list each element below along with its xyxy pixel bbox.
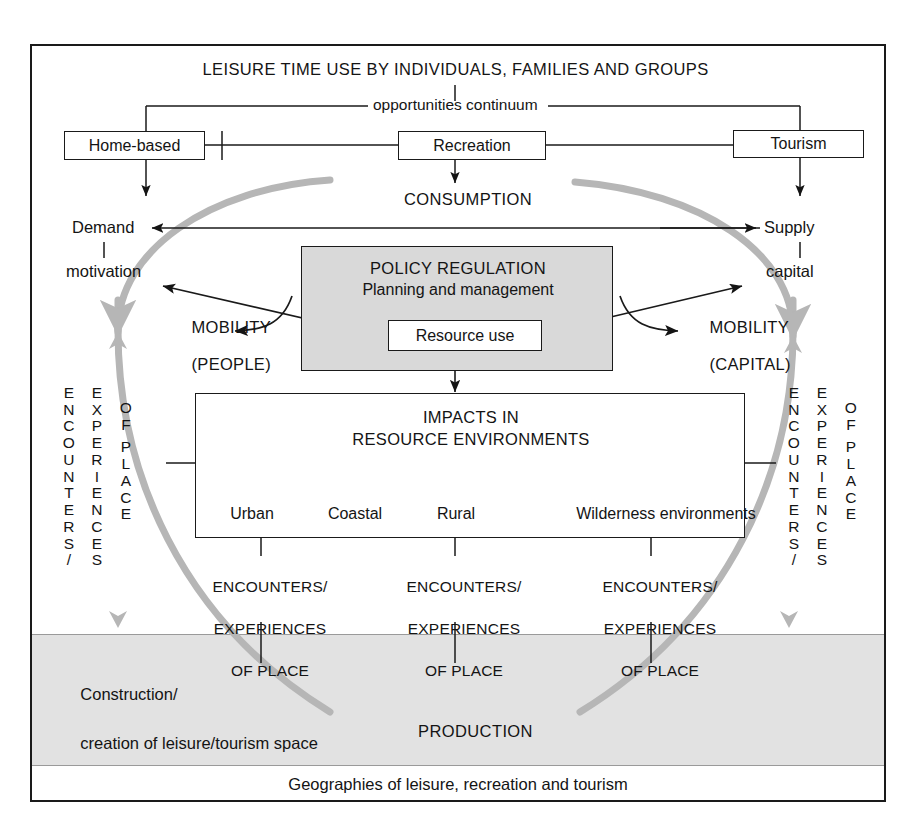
vertical-letter: E [60,385,78,402]
demand-label: Demand [72,218,134,236]
encounters-block-2-line2: EXPERIENCES [408,620,520,637]
vertical-letter: N [88,502,106,519]
encounters-block-3-line3: OF PLACE [621,662,699,679]
mobility-capital-line1: MOBILITY [710,318,789,336]
continuum-box-home-based[interactable]: Home-based [64,131,205,160]
impacts-env-wilderness: Wilderness environments [558,505,774,523]
mobility-people-line2: (PEOPLE) [192,355,271,373]
policy-regulation-title: POLICY REGULATION [302,259,614,277]
construction-line1: Construction/ [80,685,177,703]
impacts-env-coastal: Coastal [313,505,397,523]
impacts-env-rural: Rural [421,505,491,523]
vertical-letter: P [842,439,860,456]
vertical-letter: N [785,469,803,486]
vertical-letter: X [88,402,106,419]
vertical-letter: C [117,490,135,507]
vertical-letter: L [117,456,135,473]
mobility-capital-line2: (CAPITAL) [710,355,791,373]
encounters-block-3-line2: EXPERIENCES [604,620,716,637]
left-vertical-encounters: ENCOUNTERS/ [60,385,78,569]
impacts-title-line2: RESOURCE ENVIRONMENTS [196,430,746,448]
encounters-block-2: ENCOUNTERS/ EXPERIENCES OF PLACE [375,556,535,702]
vertical-letter: P [88,418,106,435]
impacts-title-line1: IMPACTS IN [196,408,746,426]
encounters-block-2-line3: OF PLACE [425,662,503,679]
vertical-letter: R [813,452,831,469]
resource-use-box[interactable]: Resource use [388,320,542,351]
demand-motivation-label: motivation [66,262,141,280]
vertical-letter: I [88,469,106,486]
vertical-letter: E [813,485,831,502]
diagram-canvas: LEISURE TIME USE BY INDIVIDUALS, FAMILIE… [0,0,911,836]
vertical-letter: F [117,417,135,434]
vertical-letter: C [88,519,106,536]
vertical-letter: / [60,552,78,569]
right-vertical-encounters: ENCOUNTERS/ [785,385,803,569]
vertical-letter: E [785,502,803,519]
impacts-box[interactable]: IMPACTS IN RESOURCE ENVIRONMENTS Urban C… [195,393,745,538]
vertical-letter: O [842,400,860,417]
continuum-box-recreation-label: Recreation [433,137,510,155]
vertical-letter: O [60,435,78,452]
right-vertical-experiences: EXPERIENCES [813,385,831,569]
vertical-letter: E [813,435,831,452]
policy-regulation-subtitle: Planning and management [302,281,614,299]
vertical-letter: E [813,385,831,402]
vertical-letter: U [60,452,78,469]
vertical-letter: N [60,402,78,419]
vertical-letter: X [813,402,831,419]
vertical-letter: I [813,469,831,486]
continuum-box-tourism[interactable]: Tourism [733,130,864,158]
vertical-letter: C [842,490,860,507]
vertical-letter: E [88,536,106,553]
production-label: PRODUCTION [418,722,533,740]
resource-use-label: Resource use [416,327,515,345]
supply-capital-label: capital [766,262,814,280]
vertical-letter: S [60,536,78,553]
vertical-letter: C [60,418,78,435]
vertical-letter: A [117,473,135,490]
vertical-letter: T [60,485,78,502]
construction-label: Construction/ creation of leisure/touris… [62,657,318,781]
vertical-letter: E [785,385,803,402]
vertical-letter: / [785,552,803,569]
vertical-letter: O [785,435,803,452]
mobility-people-label: MOBILITY (PEOPLE) [172,300,271,392]
vertical-letter: S [785,536,803,553]
left-vertical-experiences: EXPERIENCES [88,385,106,569]
impacts-env-urban: Urban [216,505,288,523]
vertical-letter: E [88,385,106,402]
vertical-letter: P [117,439,135,456]
vertical-letter: L [842,456,860,473]
footer-label: Geographies of leisure, recreation and t… [32,775,884,793]
consumption-label: CONSUMPTION [404,190,532,208]
right-vertical-of-place: OF PLACE [842,400,860,523]
vertical-letter: C [813,519,831,536]
vertical-letter: T [785,485,803,502]
vertical-letter: S [813,552,831,569]
left-vertical-of-place: OF PLACE [117,400,135,523]
encounters-block-2-line1: ENCOUNTERS/ [407,578,522,595]
vertical-letter: O [117,400,135,417]
opportunities-continuum-label: opportunities continuum [373,96,538,113]
vertical-letter: U [785,452,803,469]
encounters-block-1-line2: EXPERIENCES [214,620,326,637]
policy-regulation-box[interactable]: POLICY REGULATION Planning and managemen… [301,246,613,371]
vertical-letter: A [842,473,860,490]
vertical-letter: E [813,536,831,553]
mobility-people-line1: MOBILITY [192,318,271,336]
construction-line2: creation of leisure/tourism space [80,734,318,752]
encounters-block-3: ENCOUNTERS/ EXPERIENCES OF PLACE [571,556,731,702]
vertical-letter: S [88,552,106,569]
page-title: LEISURE TIME USE BY INDIVIDUALS, FAMILIE… [0,60,911,78]
vertical-letter: R [88,452,106,469]
vertical-letter: E [117,506,135,523]
vertical-letter: E [60,502,78,519]
continuum-box-recreation[interactable]: Recreation [398,131,546,160]
encounters-block-1-line1: ENCOUNTERS/ [213,578,328,595]
vertical-letter: R [785,519,803,536]
vertical-letter: E [88,435,106,452]
vertical-letter: N [813,502,831,519]
supply-label: Supply [764,218,814,236]
encounters-block-3-line1: ENCOUNTERS/ [603,578,718,595]
